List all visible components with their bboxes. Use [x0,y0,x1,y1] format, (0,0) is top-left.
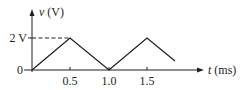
y-tick-label-0: 0 [17,63,23,77]
x-axis-arrow-icon [197,68,204,73]
x-tick-label-1.0: 1.0 [102,74,117,88]
x-tick-label-1.5: 1.5 [140,74,155,88]
y-axis-arrow-icon [30,9,35,16]
triangle-wave-chart: v (V) 2 V 0 0.5 1.0 1.5 t (ms) [0,0,245,90]
x-tick-label-0.5: 0.5 [63,74,78,88]
x-axis-label: t (ms) [208,63,236,77]
y-tick-label-2: 2 V [10,31,28,45]
y-axis-label: v (V) [39,5,64,19]
waveform-series [32,38,175,70]
